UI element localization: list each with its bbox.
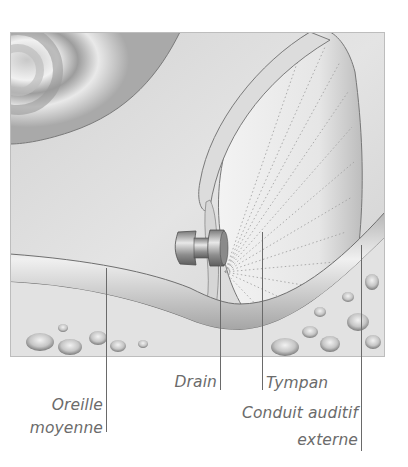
eardrum-leader-line	[262, 232, 263, 390]
middle-ear-label-line1: Oreille	[52, 398, 103, 414]
ear-canal-label-line1: Conduit auditif	[242, 406, 358, 422]
middle-ear-label-2: moyenne	[30, 421, 103, 437]
middle-ear-label: Oreille	[52, 398, 103, 414]
ear-canal-leader-line	[361, 245, 362, 451]
ear-anatomy-illustration	[10, 32, 385, 357]
drain-leader-line	[220, 262, 221, 390]
ear-canal-label-line2: externe	[297, 433, 358, 449]
eardrum-label: Tympan	[266, 376, 328, 392]
middle-ear-label-line2: moyenne	[30, 421, 103, 437]
middle-ear-leader-line	[106, 268, 107, 432]
drain-label: Drain	[175, 375, 217, 391]
